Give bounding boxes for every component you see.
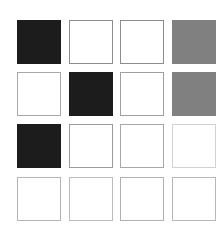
heatmap-cell[interactable] xyxy=(69,177,113,221)
heatmap-cell[interactable] xyxy=(172,124,216,168)
heatmap-cell[interactable] xyxy=(17,20,61,64)
heatmap-row xyxy=(0,20,224,65)
heatmap-cell[interactable] xyxy=(172,20,216,64)
heatmap-cell[interactable] xyxy=(172,177,216,221)
heatmap-row xyxy=(0,177,224,222)
grid-heatmap xyxy=(0,0,224,230)
heatmap-cell[interactable] xyxy=(69,20,113,64)
heatmap-cell[interactable] xyxy=(120,124,164,168)
heatmap-row xyxy=(0,124,224,169)
heatmap-cell[interactable] xyxy=(17,124,61,168)
heatmap-cell[interactable] xyxy=(69,72,113,116)
heatmap-cell[interactable] xyxy=(69,124,113,168)
heatmap-cell[interactable] xyxy=(120,72,164,116)
heatmap-row xyxy=(0,72,224,117)
heatmap-cell[interactable] xyxy=(120,177,164,221)
heatmap-cell[interactable] xyxy=(17,177,61,221)
heatmap-cell[interactable] xyxy=(17,72,61,116)
heatmap-cell[interactable] xyxy=(172,72,216,116)
heatmap-cell[interactable] xyxy=(120,20,164,64)
